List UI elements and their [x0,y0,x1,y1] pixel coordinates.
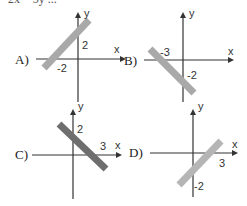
y-intercept-label: 2 [82,39,88,51]
y-axis-label: y [198,100,204,112]
y-arrow-icon [190,109,196,115]
y-intercept-label: -2 [187,69,197,81]
x-arrow-icon [116,152,122,158]
option-label: B) [124,53,137,69]
y-arrow-icon [75,12,81,18]
x-arrow-icon [232,150,238,156]
option-b-graph[interactable]: B) -3 -2 x y [124,0,247,103]
option-a-graph[interactable]: A) 2 -2 x y [0,0,124,103]
x-axis-label: x [115,139,121,151]
x-intercept-label: -2 [57,62,67,74]
y-axis-label: y [189,7,195,19]
y-axis-label: y [84,7,90,19]
y-arrow-icon [70,109,76,115]
option-d-graph[interactable]: D) 3 -2 x y [124,103,247,206]
y-arrow-icon [180,12,186,18]
x-arrow-icon [228,57,234,63]
x-axis-label: x [114,43,120,55]
y-axis-label: y [78,100,84,112]
y-intercept-label: -2 [194,180,204,192]
option-label: C) [15,147,28,163]
option-label: A) [15,52,29,68]
option-c-graph[interactable]: C) 2 3 x y [0,103,124,206]
x-axis-label: x [228,45,234,57]
x-intercept-label: 3 [100,140,106,152]
x-intercept-label: 3 [219,157,225,169]
x-axis-label: x [232,138,238,150]
option-label: D) [129,145,143,161]
y-intercept-label: 2 [77,123,83,135]
x-intercept-label: -3 [160,46,170,58]
